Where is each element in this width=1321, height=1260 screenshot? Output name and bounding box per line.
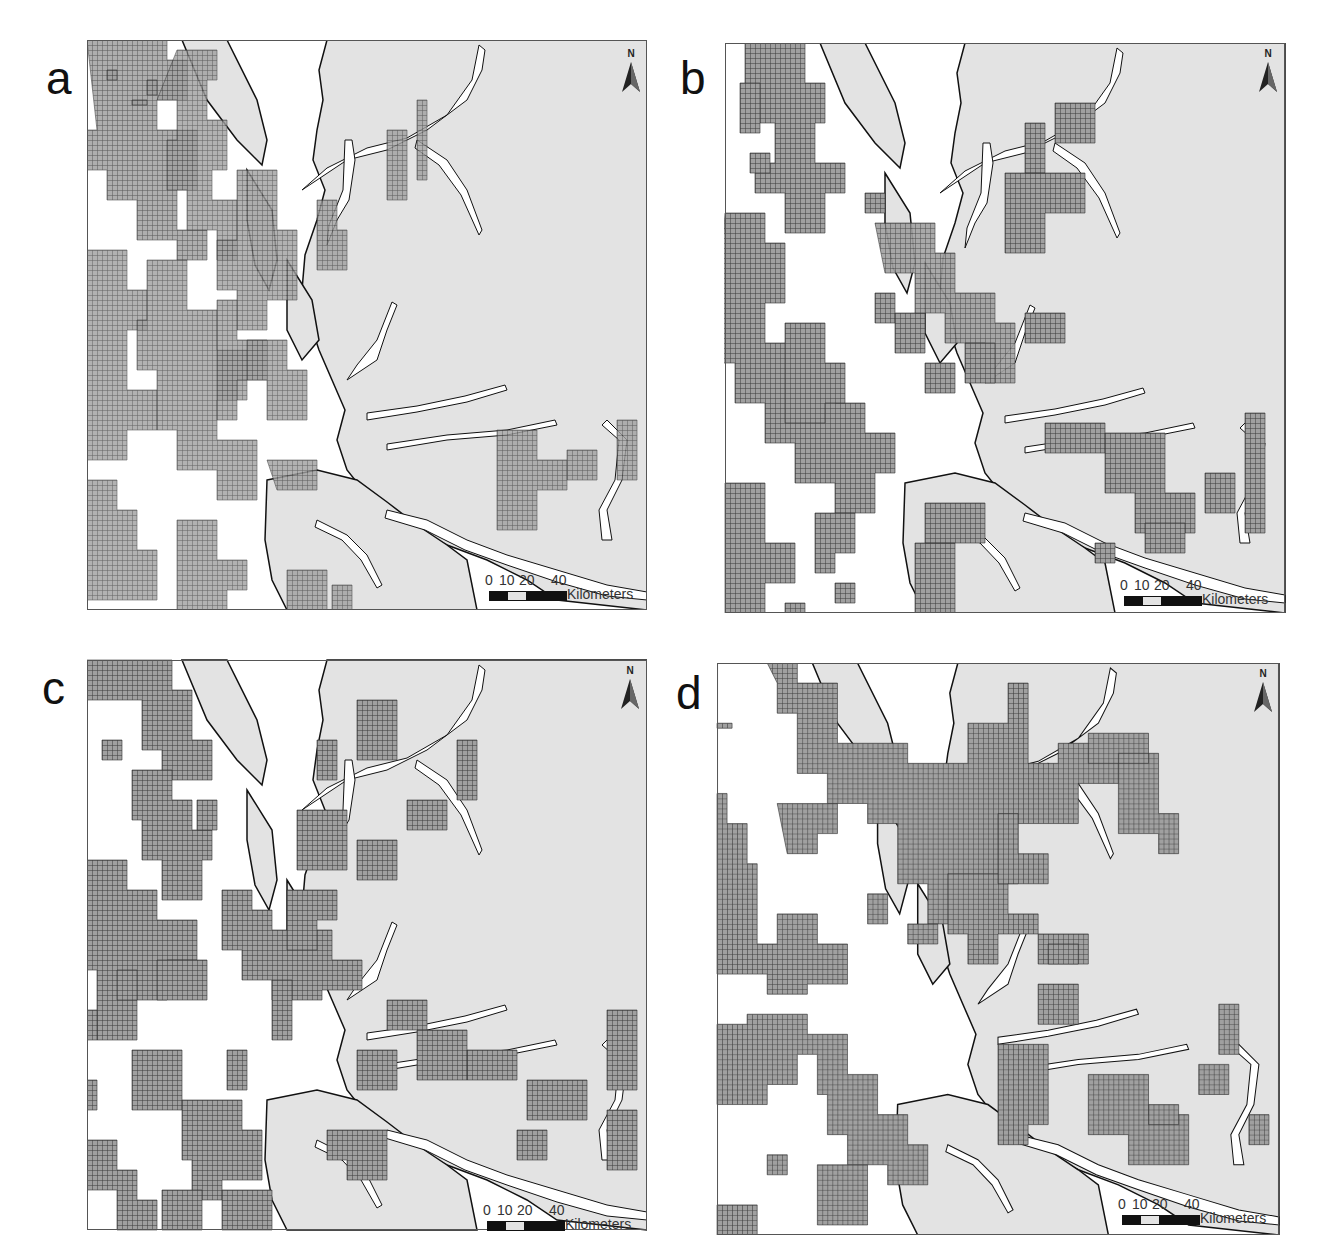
scale-tick: 10 (1134, 577, 1150, 593)
scale-bar: 0 10 20 40 Kilometers (1120, 577, 1280, 611)
scale-tick: 20 (517, 1202, 533, 1218)
north-arrow-icon (1256, 60, 1280, 100)
panel-label: a (46, 55, 72, 101)
map-panel-a (87, 40, 647, 610)
scale-tick: 40 (551, 572, 567, 588)
scale-tick: 40 (1186, 577, 1202, 593)
panel-label: c (42, 665, 65, 711)
scale-tick: 20 (1154, 577, 1170, 593)
map-panel-b (724, 43, 1286, 613)
panel-a: a N 0 10 20 40 Kilo (0, 0, 660, 620)
scale-tick: 0 (1118, 1196, 1126, 1212)
north-arrow-icon (618, 677, 642, 717)
panel-label: d (676, 670, 702, 716)
scale-bar: 0 10 20 40 Kilometers (485, 572, 645, 606)
scale-unit: Kilometers (1200, 1210, 1266, 1226)
north-arrow: N (619, 48, 643, 98)
scale-tick: 0 (1120, 577, 1128, 593)
scale-tick: 0 (485, 572, 493, 588)
panel-label: b (680, 55, 706, 101)
north-arrow-icon (619, 60, 643, 100)
scale-bar: 0 10 20 40 Kilometers (1118, 1196, 1278, 1230)
scale-bar: 0 10 20 40 Kilometers (483, 1202, 643, 1236)
map-panel-c (87, 659, 647, 1231)
scale-tick: 20 (519, 572, 535, 588)
panel-b: b N 0 10 20 40 (660, 0, 1321, 620)
scale-tick: 10 (497, 1202, 513, 1218)
north-arrow: N (1256, 48, 1280, 98)
scale-tick: 40 (1184, 1196, 1200, 1212)
north-arrow: N (618, 665, 642, 715)
panel-c: c N 0 10 20 40 (0, 630, 660, 1260)
panel-d: d N 0 10 20 40 Ki (660, 630, 1321, 1260)
scale-tick: 40 (549, 1202, 565, 1218)
scale-tick: 10 (1132, 1196, 1148, 1212)
scale-unit: Kilometers (1202, 591, 1268, 607)
scale-tick: 0 (483, 1202, 491, 1218)
map-panel-d (713, 663, 1283, 1235)
scale-tick: 10 (499, 572, 515, 588)
north-arrow: N (1251, 668, 1275, 718)
scale-tick: 20 (1152, 1196, 1168, 1212)
scale-unit: Kilometers (567, 586, 633, 602)
north-arrow-icon (1251, 680, 1275, 720)
scale-unit: Kilometers (565, 1216, 631, 1232)
